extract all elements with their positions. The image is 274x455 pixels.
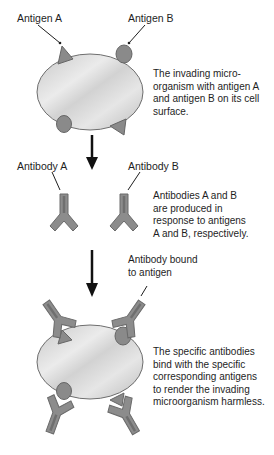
antigen-b-label: Antigen B: [128, 12, 174, 24]
bound-antibody-icon: [37, 393, 76, 437]
antigen-b-icon: [57, 116, 72, 133]
antibody-a-pointer: [52, 172, 60, 190]
microorganism-cell: [37, 54, 143, 130]
bound-label: Antibody bound to antigen: [128, 254, 198, 279]
arrow-down-icon: [86, 250, 98, 297]
stage-2-description: Antibodies A and B are produced in respo…: [153, 190, 248, 240]
stage-2-antibodies: [50, 172, 140, 231]
antigen-b-pointer: [129, 25, 145, 43]
bound-pointer: [141, 286, 147, 296]
antigen-b-icon: [57, 383, 72, 400]
antigen-a-label: Antigen A: [17, 12, 62, 24]
arrow-down-icon: [86, 135, 98, 170]
antigen-b-icon: [116, 45, 132, 63]
stage-1-microorganism: [37, 25, 145, 135]
antibody-b-pointer: [128, 172, 140, 190]
antibody-a-icon: [50, 194, 78, 231]
antibody-b-icon: [110, 194, 138, 231]
stage-1-description: The invading micro- organism with antige…: [153, 68, 259, 118]
antigen-a-pointer: [38, 25, 60, 43]
antibody-a-label: Antibody A: [17, 160, 67, 172]
stage-3-description: The specific antibodies bind with the sp…: [153, 346, 265, 409]
antibody-b-label: Antibody B: [128, 160, 179, 172]
stage-3-bound: [35, 286, 153, 440]
